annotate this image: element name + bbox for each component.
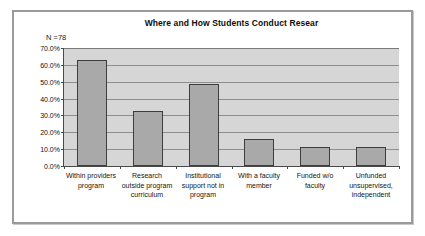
x-axis-tick-mark: [120, 166, 121, 169]
plot-wrapper: 70.0%60.0%50.0%40.0%30.0%20.0%10.0%0.0%: [63, 48, 399, 167]
bar-slot: [287, 48, 343, 166]
bar[interactable]: [77, 60, 107, 166]
y-axis-tick-label: 10.0%: [40, 146, 60, 153]
bar[interactable]: [189, 84, 219, 166]
bar[interactable]: [244, 139, 274, 166]
bar-series: [64, 48, 399, 166]
sample-size-annotation: N =78: [46, 33, 66, 42]
chart-frame: Where and How Students Conduct Resear N …: [12, 10, 413, 224]
x-axis-tick-mark: [232, 166, 233, 169]
bar[interactable]: [356, 147, 386, 166]
x-axis-category-label: With a facultymember: [231, 171, 287, 200]
y-axis-tick-label: 0.0%: [44, 163, 60, 170]
x-axis-category-label: Researchoutside programcurriculum: [119, 171, 175, 200]
x-axis-tick-mark: [287, 166, 288, 169]
x-axis-category-label: Institutionalsupport not inprogram: [175, 171, 231, 200]
bar[interactable]: [300, 147, 330, 166]
y-axis-tick-label: 50.0%: [40, 78, 60, 85]
bar-slot: [343, 48, 399, 166]
bar-slot: [64, 48, 120, 166]
bar-slot: [231, 48, 287, 166]
chart-title: Where and How Students Conduct Resear: [64, 18, 399, 28]
x-axis-tick-mark: [176, 166, 177, 169]
x-axis-tick-mark: [64, 166, 65, 169]
bar-slot: [176, 48, 232, 166]
y-axis-tick-label: 70.0%: [40, 45, 60, 52]
bar-slot: [120, 48, 176, 166]
x-axis-category-label: Unfundedunsupervised,independent: [343, 171, 399, 200]
x-axis-category-labels: Within providersprogramResearchoutside p…: [63, 171, 399, 200]
y-axis-tick-label: 20.0%: [40, 129, 60, 136]
x-axis-tick-mark: [343, 166, 344, 169]
plot-area: 70.0%60.0%50.0%40.0%30.0%20.0%10.0%0.0%: [63, 48, 399, 167]
x-axis-category-label: Within providersprogram: [63, 171, 119, 200]
bar[interactable]: [133, 111, 163, 166]
y-axis-tick-label: 30.0%: [40, 112, 60, 119]
y-axis-tick-label: 40.0%: [40, 95, 60, 102]
x-axis-tick-mark: [399, 166, 400, 169]
y-axis-tick-label: 60.0%: [40, 61, 60, 68]
x-axis-category-label: Funded w/ofaculty: [287, 171, 343, 200]
